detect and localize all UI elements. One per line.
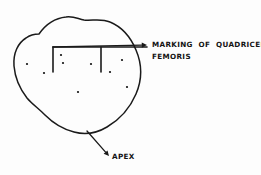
label-quadriceps-marking-line1: MARKING OF QUADRICEPS (152, 40, 261, 49)
label-quadriceps-marking-line2: FEMORIS (152, 52, 191, 61)
anatomical-sketch: MARKING OF QUADRICEPS FEMORIS APEX (0, 0, 261, 175)
stipple-dot (109, 71, 111, 73)
stipple-dot (60, 54, 62, 56)
stipple-dot (121, 59, 123, 61)
stipple-dot (43, 72, 45, 74)
stipple-dot (90, 63, 92, 65)
stipple-dot (77, 91, 79, 93)
label-apex: APEX (112, 152, 135, 161)
stipple-dot (126, 86, 128, 88)
apex-leader-line (87, 131, 106, 152)
quadriceps-bracket (53, 47, 147, 72)
diagram-canvas: MARKING OF QUADRICEPS FEMORIS APEX (0, 0, 261, 175)
patella-outline (14, 17, 141, 134)
stipple-dots (26, 54, 128, 93)
stipple-dot (62, 62, 64, 64)
apex-leader-arrow (87, 131, 109, 156)
stipple-dot (26, 63, 28, 65)
